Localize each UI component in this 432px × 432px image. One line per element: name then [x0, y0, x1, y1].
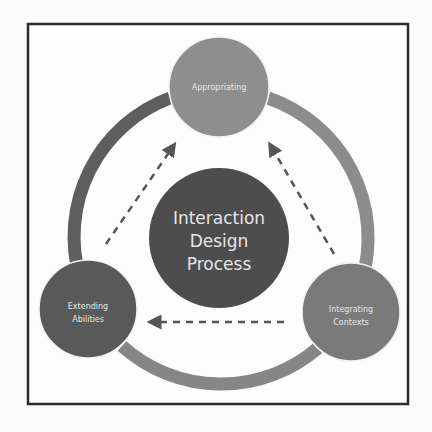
node-extending-label-line-2: Abilities	[72, 315, 104, 324]
center-node: Interaction Design Process	[149, 168, 289, 308]
interaction-design-diagram: Interaction Design Process Appropriating…	[0, 0, 432, 432]
node-integrating-label-line-1: Integrating	[329, 305, 373, 314]
node-integrating-label-line-2: Contexts	[333, 318, 369, 327]
node-appropriating: Appropriating	[169, 37, 269, 137]
node-extending-abilities: Extending Abilities	[39, 260, 137, 358]
center-label-line-3: Process	[187, 254, 252, 274]
node-appropriating-label: Appropriating	[192, 83, 247, 92]
center-label-line-2: Design	[190, 231, 249, 251]
node-integrating-contexts: Integrating Contexts	[302, 263, 400, 361]
node-extending-label-line-1: Extending	[68, 302, 108, 311]
center-label-line-1: Interaction	[173, 208, 265, 228]
